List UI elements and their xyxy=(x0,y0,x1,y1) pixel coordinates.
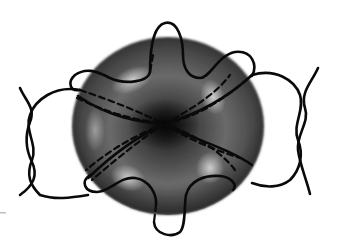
figure-canvas: Disc-shaped cell with looping strands xyxy=(0,0,340,249)
cell-strand-illustration xyxy=(0,0,340,249)
right-braid-strand-b xyxy=(298,68,318,194)
edge-mark xyxy=(0,212,6,214)
